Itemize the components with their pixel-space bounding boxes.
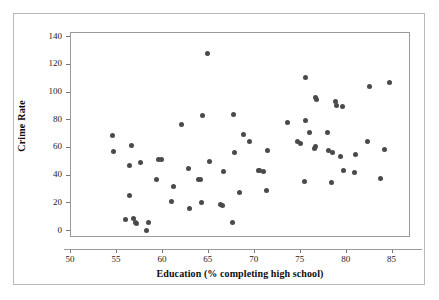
x-tick-label: 85 [387, 255, 396, 264]
data-point [325, 130, 330, 135]
data-point [334, 103, 339, 108]
data-point [179, 122, 184, 127]
data-point [298, 141, 303, 146]
data-point [199, 200, 204, 205]
data-point [341, 168, 346, 173]
data-point [303, 118, 308, 123]
data-points-layer [71, 33, 409, 236]
x-axis-line [64, 249, 422, 250]
data-point [340, 104, 345, 109]
data-point [247, 139, 252, 144]
data-point [231, 112, 236, 117]
data-point [352, 170, 357, 175]
data-point [186, 166, 191, 171]
data-point [353, 152, 358, 157]
data-point [307, 130, 312, 135]
data-point [241, 132, 246, 137]
x-tick-label: 65 [203, 255, 212, 264]
data-point [330, 150, 335, 155]
data-point [387, 80, 392, 85]
data-point [205, 51, 210, 56]
data-point [110, 133, 115, 138]
data-point [230, 220, 235, 225]
data-point [232, 150, 237, 155]
data-point [134, 221, 139, 226]
data-point [365, 139, 370, 144]
data-point [382, 147, 387, 152]
data-point [303, 75, 308, 80]
data-point [237, 190, 242, 195]
data-point [329, 180, 334, 185]
data-point [154, 177, 159, 182]
data-point [123, 217, 128, 222]
data-point [159, 157, 164, 162]
data-point [285, 120, 290, 125]
x-tick-label: 80 [341, 255, 350, 264]
plot-area [70, 32, 410, 237]
data-point [261, 169, 266, 174]
data-point [129, 143, 134, 148]
data-point [127, 193, 132, 198]
data-point [187, 206, 192, 211]
data-point [169, 199, 174, 204]
x-tick-label: 55 [111, 255, 120, 264]
x-tick-label: 60 [157, 255, 166, 264]
data-point [338, 154, 343, 159]
data-point [207, 159, 212, 164]
data-point [138, 160, 143, 165]
data-point [314, 97, 319, 102]
x-tick-label: 70 [249, 255, 258, 264]
data-point [146, 220, 151, 225]
data-point [111, 149, 116, 154]
data-point [264, 188, 269, 193]
data-point [313, 144, 318, 149]
data-point [200, 113, 205, 118]
data-point [127, 163, 132, 168]
data-point [198, 177, 203, 182]
scatter-plot-figure: Crime Rate Education (% completing high … [0, 0, 439, 300]
data-point [367, 84, 372, 89]
data-point [221, 169, 226, 174]
data-point [302, 179, 307, 184]
data-point [171, 184, 176, 189]
data-point [220, 203, 225, 208]
x-tick-label: 75 [295, 255, 304, 264]
data-point [144, 228, 149, 233]
data-point [378, 176, 383, 181]
data-point [265, 148, 270, 153]
x-tick-label: 50 [66, 255, 75, 264]
